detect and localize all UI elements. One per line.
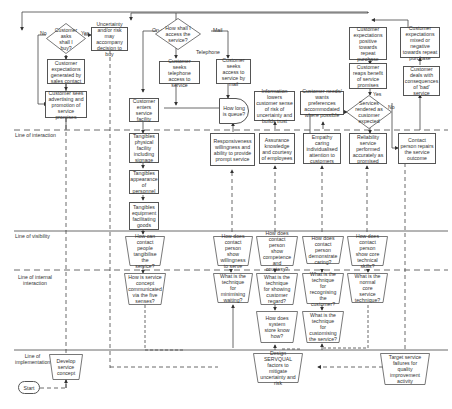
- box-tangibles-equipment: Tangibles equipment facilitating goods: [129, 202, 159, 230]
- decision-should-i-buy: Customer asks shall I buy?: [46, 23, 86, 54]
- box-tangibles-personnel: Tangibles appearance of personnel: [129, 170, 159, 194]
- decision-how-access-service: How shall I access the service?: [155, 18, 201, 50]
- trap-minimising-waiting: What is the technique for minimising wai…: [213, 273, 253, 303]
- lane-label-line-of-internal-interaction: Line of internal interaction: [15, 274, 55, 286]
- lane-label-line-of-interaction: Line of interaction: [15, 132, 56, 138]
- trap-contact-tangibilise: How can contact people tangibilise the s…: [125, 236, 165, 266]
- trap-develop-service-concept: Develop service concept: [49, 354, 83, 380]
- trap-normal-core-technique: What is the normal core service techniqu…: [347, 273, 388, 303]
- trap-design-servqual: Design SERVQUAL factors to mitigate unce…: [253, 353, 303, 383]
- service-blueprint-diagram: Line of interaction Line of visibility L…: [0, 0, 452, 409]
- box-deals-bad-service: Customer deals with consequences of 'bad…: [403, 66, 440, 96]
- box-sees-advertising: Customer sees advertising and promotion …: [45, 91, 87, 118]
- start-terminal: Start: [18, 381, 40, 394]
- trap-customising-service: What is the technique for customising th…: [302, 311, 344, 343]
- box-uncertainty-risk: Uncertainty and/or risk may accompany de…: [91, 27, 128, 51]
- box-mail-access: Customer seeks access to service by mail: [216, 59, 251, 84]
- box-needs-accommodated: Customer needs/ wants preferences accomm…: [300, 91, 344, 115]
- box-telephone-access: Customer seeks telephone access to servi…: [159, 61, 200, 84]
- decision-service-as-expected: Services rendered as customer expected: [346, 95, 392, 129]
- box-responsiveness: Responsiveness willingness and ability t…: [210, 133, 255, 166]
- trap-core-technical-skills: How does contact person show core techni…: [347, 236, 388, 266]
- box-expectations-sales-contact: Customer expectations generated by sales…: [47, 59, 85, 84]
- box-reaps-benefit: Customer reaps benefit of service promis…: [349, 63, 387, 89]
- box-empathy: Empathy caring individualised attention …: [303, 133, 341, 164]
- box-reliability: Reliability service performed accurately…: [349, 133, 387, 164]
- trap-target-service-failures: Target service failures for quality impr…: [380, 353, 430, 385]
- box-expectations-positive: Customer expectations positive towards r…: [349, 27, 387, 60]
- trap-recognising-customer: What is the technique for recognising th…: [302, 273, 344, 304]
- lane-label-line-of-visibility: Line of visibility: [15, 233, 50, 239]
- trap-demonstrate-caring: How does contact person demonstrate cari…: [302, 236, 344, 264]
- box-tangibles-facility: Tangibles physical facility including si…: [129, 133, 159, 163]
- trap-show-competence: How does contact person show competence …: [256, 236, 298, 266]
- trap-show-willingness: How does contact person show willingness…: [213, 236, 253, 266]
- edge-label-mail: Mail: [213, 27, 223, 33]
- trap-showing-customer-regard: What is the technique for showing custom…: [256, 273, 298, 305]
- box-contact-repairs-outcome: Contact person repairs the service outco…: [398, 133, 436, 164]
- lane-label-line-of-implementation: Line of implementation: [15, 353, 50, 365]
- box-how-long-queue: How long is queue?: [219, 98, 249, 124]
- box-enters-facility: Customer enters service facility: [129, 98, 159, 122]
- trap-system-know-how: How does system store know how?: [256, 311, 298, 343]
- trap-concept-five-senses: How is service concept communicated via …: [124, 273, 166, 305]
- box-expectations-mixed: Customer expectations mixed or negative …: [400, 27, 440, 58]
- box-information-lowers-risk: Information lowers customer sense of ris…: [254, 91, 295, 121]
- box-assurance: Assurance knowledge and courtesy of empl…: [259, 133, 295, 164]
